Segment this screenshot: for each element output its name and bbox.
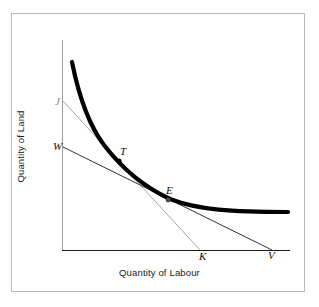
tangency-point-e xyxy=(166,198,171,203)
y-axis-title: Quantity of Land xyxy=(15,87,26,207)
label-k: K xyxy=(199,250,206,262)
label-w: W xyxy=(53,140,62,152)
tangency-point-t xyxy=(116,158,121,163)
isoquant-curve xyxy=(72,62,288,212)
label-v: V xyxy=(268,249,275,261)
figure-root: J W T E K V Quantity of Labour Quantity … xyxy=(0,0,319,307)
label-j: J xyxy=(55,95,60,107)
x-axis-title: Quantity of Labour xyxy=(0,267,319,278)
label-e: E xyxy=(166,184,173,196)
label-t: T xyxy=(120,145,126,157)
